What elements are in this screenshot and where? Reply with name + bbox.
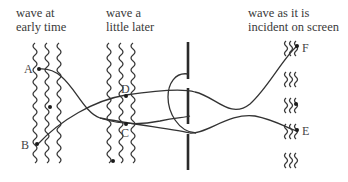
- svg-text:F: F: [302, 41, 309, 55]
- svg-text:E: E: [302, 124, 309, 138]
- svg-text:A: A: [24, 62, 33, 76]
- point-A: A: [24, 62, 41, 76]
- slit-curves: [168, 74, 196, 133]
- point-unlabeled-later: [111, 159, 115, 163]
- svg-text:wave a: wave a: [106, 6, 141, 20]
- point-unlabeled-screen: [294, 102, 298, 106]
- svg-text:D: D: [121, 82, 130, 96]
- path-B-to-F: [37, 46, 297, 145]
- label-early-time: wave at early time: [16, 6, 67, 34]
- point-unlabeled-early: [48, 105, 52, 109]
- svg-text:B: B: [21, 138, 29, 152]
- double-slit-wave-diagram: wave at early time wave a little later w…: [0, 0, 348, 182]
- svg-text:C: C: [121, 126, 129, 140]
- svg-text:wave at: wave at: [16, 6, 55, 20]
- label-a-little-later: wave a little later: [106, 6, 155, 34]
- point-E: E: [295, 124, 309, 138]
- label-incident-on-screen: wave as it is incident on screen: [248, 6, 340, 34]
- svg-text:early time: early time: [16, 20, 67, 34]
- point-D: D: [121, 82, 130, 98]
- svg-text:incident on screen: incident on screen: [248, 20, 340, 34]
- later-wavefronts: [107, 43, 135, 163]
- svg-text:wave as it is: wave as it is: [248, 6, 310, 20]
- svg-text:little later: little later: [106, 20, 155, 34]
